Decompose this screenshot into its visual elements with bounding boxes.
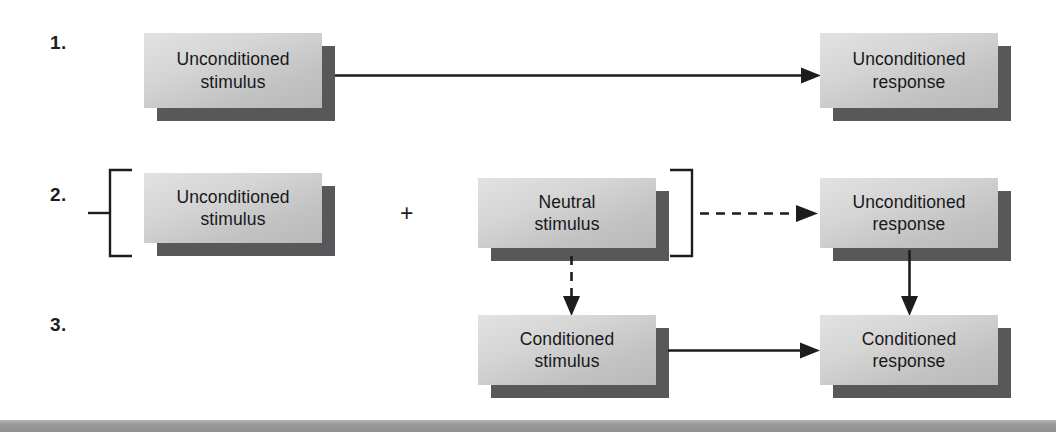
box-label: Unconditioned response (852, 191, 965, 236)
classical-conditioning-diagram: 1. 2. 3. Unconditioned stimulus Uncondit… (0, 0, 1056, 432)
box-label: Unconditioned response (852, 48, 965, 93)
pairing-bracket-left (86, 168, 138, 260)
box-conditioned-response-row3: Conditioned response (820, 315, 998, 385)
box-face: Unconditioned response (820, 33, 998, 108)
arrow-us-to-ur-row1 (335, 60, 825, 92)
box-label: Unconditioned stimulus (176, 186, 289, 231)
box-label: Conditioned stimulus (520, 328, 615, 373)
step-number-2: 2. (50, 185, 67, 204)
box-unconditioned-stimulus-row1: Unconditioned stimulus (144, 33, 322, 108)
step-number-3: 3. (50, 315, 67, 334)
box-neutral-stimulus-row2: Neutral stimulus (478, 178, 656, 248)
box-face: Unconditioned stimulus (144, 33, 322, 108)
box-unconditioned-stimulus-row2: Unconditioned stimulus (144, 173, 322, 243)
box-face: Conditioned response (820, 315, 998, 385)
arrow-pair-to-ur-row2 (700, 198, 822, 230)
box-label: Conditioned response (862, 328, 957, 373)
footer-rule (0, 420, 1056, 432)
box-conditioned-stimulus-row3: Conditioned stimulus (478, 315, 656, 385)
box-label: Neutral stimulus (535, 191, 600, 236)
box-face: Unconditioned response (820, 178, 998, 248)
step-number-1: 1. (50, 33, 67, 52)
box-unconditioned-response-row1: Unconditioned response (820, 33, 998, 108)
pairing-bracket-right (668, 168, 700, 260)
arrow-cs-to-cr (668, 335, 824, 367)
box-face: Unconditioned stimulus (144, 173, 322, 243)
plus-operator: + (400, 202, 413, 225)
arrow-ns-to-cs (556, 256, 588, 318)
box-face: Neutral stimulus (478, 178, 656, 248)
box-face: Conditioned stimulus (478, 315, 656, 385)
box-unconditioned-response-row2: Unconditioned response (820, 178, 998, 248)
box-label: Unconditioned stimulus (176, 48, 289, 93)
